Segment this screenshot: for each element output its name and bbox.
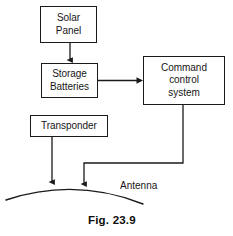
label-antenna: Antenna xyxy=(120,180,157,191)
node-solar-panel-label: Solar Panel xyxy=(56,12,81,36)
antenna-arc xyxy=(6,189,143,204)
node-command-control-system: Command control system xyxy=(143,56,225,105)
node-command-control-system-label: Command control system xyxy=(161,62,207,99)
node-storage-batteries-label: Storage Batteries xyxy=(50,68,89,92)
node-solar-panel: Solar Panel xyxy=(40,6,97,43)
satellite-block-diagram: Solar Panel Storage Batteries Command co… xyxy=(0,0,233,236)
figure-caption: Fig. 23.9 xyxy=(88,214,136,226)
node-storage-batteries: Storage Batteries xyxy=(41,63,98,98)
node-transponder: Transponder xyxy=(30,115,108,137)
node-transponder-label: Transponder xyxy=(41,120,97,132)
